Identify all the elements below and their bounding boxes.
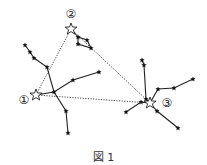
figure-caption: 図 1 (0, 148, 207, 164)
label-star-3: ③ (162, 96, 173, 110)
small-stars (22, 34, 195, 135)
label-star-2: ② (66, 7, 77, 21)
star-diagram: ① ② ③ (0, 0, 207, 165)
label-star-1: ① (19, 93, 30, 107)
constellation-lines (25, 29, 193, 133)
main-star-1-icon (30, 89, 42, 100)
